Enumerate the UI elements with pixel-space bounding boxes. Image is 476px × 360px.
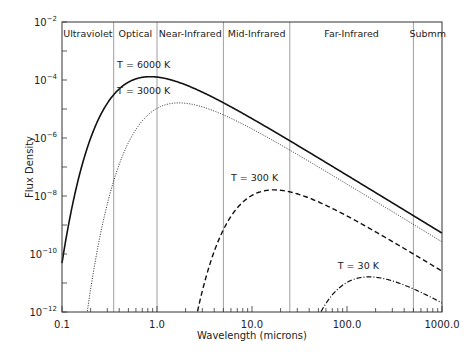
curves (62, 77, 442, 312)
blackbody-chart: UltravioletOpticalNear-InfraredMid-Infra… (0, 0, 476, 360)
x-tick-label: 1000.0 (425, 319, 460, 330)
region-label: Optical (119, 28, 153, 39)
y-tick-label: 10−6 (34, 131, 58, 144)
y-tick-label: 10−2 (34, 15, 57, 28)
x-tick-label: 1.0 (149, 319, 165, 330)
region-label: Mid-Infrared (228, 28, 286, 39)
x-axis-label: Wavelength (microns) (197, 330, 307, 341)
x-tick-label: 10.0 (241, 319, 263, 330)
x-tick-label: 100.0 (333, 319, 362, 330)
region-label: Near-Infrared (159, 28, 222, 39)
curve-label: T = 3000 K (116, 85, 171, 96)
region-label: Ultraviolet (63, 28, 113, 39)
x-tick-label: 0.1 (54, 319, 70, 330)
curve-label: T = 300 K (230, 172, 279, 183)
curve-6000k (62, 77, 442, 263)
y-tick-label: 10−10 (29, 247, 57, 260)
y-tick-label: 10−8 (34, 189, 57, 202)
region-label: Submm (409, 28, 446, 39)
y-tick-label: 10−4 (34, 73, 58, 86)
curve-30k (321, 277, 442, 312)
curve-300k (198, 190, 442, 311)
y-axis-label: Flux Density (24, 136, 35, 198)
curve-label: T = 6000 K (116, 59, 171, 70)
y-tick-label: 10−12 (29, 305, 57, 318)
curve-label: T = 30 K (337, 260, 380, 271)
curve-labels: T = 6000 KT = 3000 KT = 300 KT = 30 K (116, 59, 380, 271)
region-label: Far-Infrared (324, 28, 379, 39)
